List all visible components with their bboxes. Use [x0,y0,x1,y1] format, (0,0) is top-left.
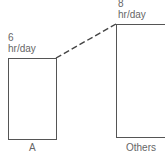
value-label-others: 8 hr/day [118,0,146,20]
category-label-others: Others [126,142,156,153]
value-others: 8 [118,0,146,9]
category-label-a: A [29,142,36,153]
bar-a [8,58,57,140]
unit-a: hr/day [8,43,36,54]
unit-others: hr/day [118,9,146,20]
value-label-a: 6 hr/day [8,32,36,54]
value-a: 6 [8,32,36,43]
bar-others [116,24,165,138]
